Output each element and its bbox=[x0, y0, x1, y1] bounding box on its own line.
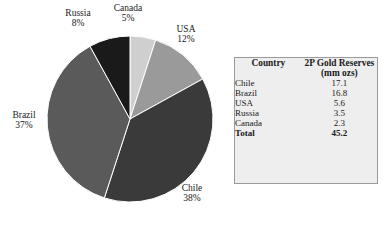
pie-label-brazil-name: Brazil bbox=[2, 110, 46, 120]
reserves-table-panel: Country 2P Gold Reserves (mm ozs) Chile1… bbox=[234, 57, 378, 184]
column-header-units: (mm ozs) bbox=[302, 68, 377, 78]
column-header-units-spacer bbox=[235, 68, 302, 78]
table-row: Canada2.3 bbox=[235, 118, 377, 128]
pie-label-canada-name: Canada bbox=[104, 3, 152, 13]
pie-label-russia-name: Russia bbox=[55, 8, 101, 18]
table-row: Russia3.5 bbox=[235, 108, 377, 118]
pie-label-usa-name: USA bbox=[166, 24, 206, 34]
cell-reserves-value: 16.8 bbox=[302, 88, 377, 98]
cell-reserves-value: 17.1 bbox=[302, 78, 377, 88]
cell-country: Canada bbox=[235, 118, 302, 128]
cell-country: Total bbox=[235, 128, 302, 138]
column-header-reserves: 2P Gold Reserves bbox=[302, 58, 377, 68]
cell-country: Brazil bbox=[235, 88, 302, 98]
table-units-row: (mm ozs) bbox=[235, 68, 377, 78]
pie-label-chile-name: Chile bbox=[170, 183, 214, 193]
cell-reserves-value: 3.5 bbox=[302, 108, 377, 118]
table-row: Chile17.1 bbox=[235, 78, 377, 88]
pie-label-usa-percent: 12% bbox=[166, 34, 206, 44]
cell-reserves-value: 2.3 bbox=[302, 118, 377, 128]
cell-country: USA bbox=[235, 98, 302, 108]
reserves-table-head: Country 2P Gold Reserves (mm ozs) bbox=[235, 58, 377, 78]
pie-label-usa: USA 12% bbox=[166, 24, 206, 45]
cell-country: Chile bbox=[235, 78, 302, 88]
cell-reserves-value: 45.2 bbox=[302, 128, 377, 138]
column-header-country: Country bbox=[235, 58, 302, 68]
pie-chart: Russia 8% Canada 5% USA 12% Brazil 37% C… bbox=[0, 0, 240, 227]
reserves-table: Country 2P Gold Reserves (mm ozs) Chile1… bbox=[235, 58, 377, 138]
pie-label-brazil-percent: 37% bbox=[2, 120, 46, 130]
pie-label-russia-percent: 8% bbox=[55, 18, 101, 28]
pie-label-chile-percent: 38% bbox=[170, 193, 214, 203]
pie-label-canada: Canada 5% bbox=[104, 3, 152, 24]
pie-label-brazil: Brazil 37% bbox=[2, 110, 46, 131]
cell-country: Russia bbox=[235, 108, 302, 118]
gold-reserves-figure: Russia 8% Canada 5% USA 12% Brazil 37% C… bbox=[0, 0, 386, 227]
table-row: Brazil16.8 bbox=[235, 88, 377, 98]
table-header-row: Country 2P Gold Reserves bbox=[235, 58, 377, 68]
table-row: USA5.6 bbox=[235, 98, 377, 108]
cell-reserves-value: 5.6 bbox=[302, 98, 377, 108]
pie-label-russia: Russia 8% bbox=[55, 8, 101, 29]
pie-slice-group bbox=[47, 36, 213, 202]
pie-label-chile: Chile 38% bbox=[170, 183, 214, 204]
reserves-table-body: Chile17.1Brazil16.8USA5.6Russia3.5Canada… bbox=[235, 78, 377, 138]
table-total-row: Total45.2 bbox=[235, 128, 377, 138]
pie-label-canada-percent: 5% bbox=[104, 13, 152, 23]
